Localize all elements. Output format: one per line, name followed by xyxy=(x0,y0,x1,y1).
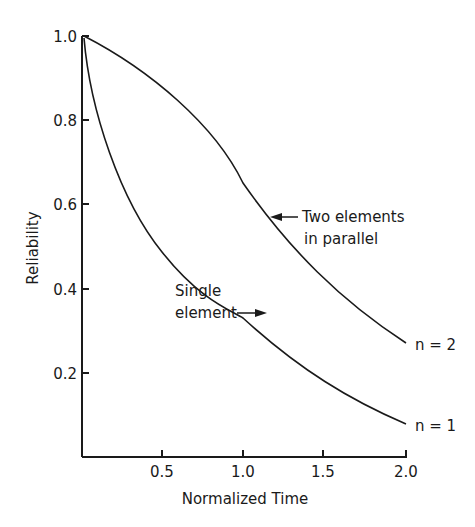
y-tick-label: 0.4 xyxy=(53,281,77,299)
y-tick-label: 0.2 xyxy=(53,365,77,383)
y-tick-label: 1.0 xyxy=(53,28,77,46)
x-tick-label: 0.5 xyxy=(150,463,174,481)
arrow-icon xyxy=(255,309,267,317)
x-ticks xyxy=(162,450,406,457)
label-n1: n = 1 xyxy=(415,417,456,435)
y-axis-label: Reliability xyxy=(24,211,42,284)
label-n2: n = 2 xyxy=(415,336,456,354)
y-tick-label: 0.6 xyxy=(53,196,77,214)
x-tick-label: 2.0 xyxy=(394,463,418,481)
annotation-single: Single xyxy=(175,282,221,300)
annotation-in-parallel: in parallel xyxy=(304,230,378,248)
x-tick-label: 1.0 xyxy=(231,463,255,481)
y-tick-label: 0.8 xyxy=(53,112,77,130)
y-ticks xyxy=(82,36,89,373)
x-tick-label: 1.5 xyxy=(311,463,335,481)
annotation-two-elements: Two elements xyxy=(301,208,405,226)
arrow-icon xyxy=(270,213,282,221)
curve-n2 xyxy=(84,36,406,343)
annotation-element: element xyxy=(175,304,237,322)
reliability-chart: 1.0 0.8 0.6 0.4 0.2 0.5 1.0 1.5 2.0 Norm… xyxy=(0,0,475,527)
x-axis-label: Normalized Time xyxy=(182,490,309,508)
